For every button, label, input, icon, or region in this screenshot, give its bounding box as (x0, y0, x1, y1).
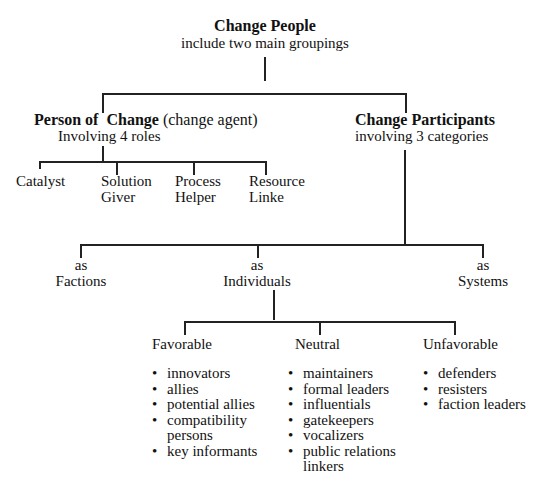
root-title: Change People (200, 18, 330, 34)
title-normal: (change agent) (163, 111, 258, 128)
person-of-change-title: Person of Change (change agent) (34, 112, 258, 128)
connector (102, 146, 104, 161)
category-individuals: asIndividuals (212, 257, 302, 289)
role-process-helper: ProcessHelper (175, 173, 221, 205)
list-item: potential allies (152, 397, 257, 413)
connector (39, 161, 41, 169)
connector (102, 93, 407, 95)
connector (482, 244, 484, 258)
person-of-change-subtitle: Involving 4 roles (58, 128, 161, 144)
connector (273, 290, 275, 320)
title-bold-2: Change (106, 111, 158, 128)
list-item: vocalizers (288, 428, 398, 444)
list-item: defenders (423, 366, 526, 382)
list-item: compatibility persons (152, 413, 237, 444)
neutral-list: maintainers formal leaders influentials … (288, 366, 398, 475)
root-subtitle: include two main groupings (170, 35, 360, 51)
list-item: innovators (152, 366, 257, 382)
category-factions: asFactions (46, 257, 116, 289)
connector (454, 321, 456, 335)
connector (319, 321, 321, 335)
list-item: resisters (423, 382, 526, 398)
role-solution-giver: SolutionGiver (101, 173, 152, 205)
connector (405, 93, 407, 113)
connector (102, 93, 104, 113)
list-item: maintainers (288, 366, 398, 382)
role-resource-linker: ResourceLinke (249, 173, 305, 205)
change-participants-title: Change Participants (355, 112, 495, 128)
list-item: gatekeepers (288, 413, 398, 429)
category-systems: asSystems (452, 257, 514, 289)
unfavorable-list: defenders resisters faction leaders (423, 366, 526, 413)
group-favorable-label: Favorable (152, 336, 212, 352)
connector (404, 150, 406, 244)
group-unfavorable-label: Unfavorable (423, 336, 498, 352)
list-item: public relations linkers (288, 444, 398, 475)
list-item: allies (152, 382, 257, 398)
connector (80, 244, 82, 258)
connector (184, 321, 186, 335)
connector (264, 57, 266, 81)
list-item: formal leaders (288, 382, 398, 398)
list-item: faction leaders (423, 397, 526, 413)
change-participants-subtitle: involving 3 categories (355, 128, 488, 144)
connector (39, 161, 266, 163)
role-catalyst: Catalyst (16, 173, 65, 189)
favorable-list: innovators allies potential allies compa… (152, 366, 257, 459)
list-item: influentials (288, 397, 398, 413)
connector (80, 244, 484, 246)
list-item: key informants (152, 444, 257, 460)
title-bold-1: Person of (34, 111, 98, 128)
group-neutral-label: Neutral (295, 336, 340, 352)
connector (257, 244, 259, 258)
